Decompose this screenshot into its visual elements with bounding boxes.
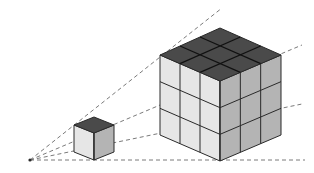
large-cube (160, 28, 281, 161)
diagram-svg (0, 0, 314, 173)
origin-point (28, 158, 31, 161)
cube-scaling-diagram (0, 0, 314, 173)
small-cube (74, 117, 114, 160)
